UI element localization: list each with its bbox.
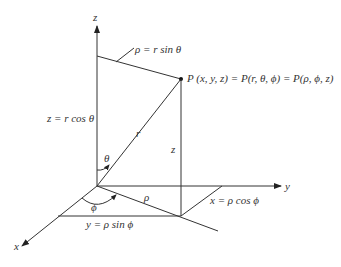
- z-height-label: z: [170, 143, 176, 155]
- rho-equation-label: ρ = r sin θ: [134, 43, 182, 55]
- theta-label: θ: [104, 152, 110, 164]
- point-p-label: P (x, y, z) = P(r, θ, ϕ) = P(ρ, ϕ, z): [186, 72, 334, 85]
- spherical-coordinates-diagram: z y x ρ = r sin θ P (x, y, z) = P(r, θ, …: [0, 0, 341, 267]
- y-axis-label: y: [284, 180, 290, 192]
- r-label: r: [136, 127, 141, 139]
- y-equation-label: y = ρ sin ϕ: [85, 218, 133, 230]
- rho-top-segment: [97, 56, 181, 79]
- x-equation-label: x = ρ cos ϕ: [209, 194, 259, 206]
- x-axis-label: x: [13, 240, 19, 252]
- rho-leader-line: [116, 48, 134, 62]
- z-axis-label: z: [92, 11, 98, 23]
- theta-arc: [97, 165, 109, 170]
- phi-label: ϕ: [91, 201, 97, 213]
- phi-arc: [82, 195, 116, 204]
- rho-label: ρ: [143, 191, 149, 203]
- z-equation-label: z = r cos θ: [46, 112, 95, 124]
